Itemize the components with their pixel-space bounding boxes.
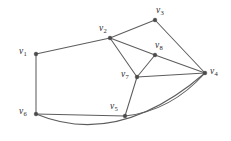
vertex-label-index: 2 — [104, 27, 107, 34]
vertex-label-v4: v4 — [210, 67, 218, 77]
vertex-label-v7: v7 — [121, 70, 129, 80]
vertex-label-letter: v — [155, 40, 159, 50]
graph-vertex-v2 — [108, 36, 112, 40]
vertex-label-letter: v — [19, 106, 23, 116]
graph-edge-v2-v3 — [110, 20, 155, 38]
vertex-label-letter: v — [121, 69, 125, 79]
graph-edge-v5-v4 — [125, 73, 205, 116]
vertex-label-v2: v2 — [99, 24, 107, 34]
vertex-label-index: 1 — [24, 50, 27, 57]
graph-vertex-v3 — [153, 18, 157, 22]
graph-edge-v8-v4 — [155, 55, 205, 73]
vertex-label-letter: v — [19, 46, 23, 56]
vertex-label-v6: v6 — [19, 107, 27, 117]
graph-edge-v6-v4 — [36, 73, 205, 125]
graph-vertex-v1 — [34, 52, 38, 56]
vertex-label-letter: v — [110, 101, 114, 111]
graph-vertex-v8 — [153, 53, 157, 57]
vertex-label-v8: v8 — [155, 41, 163, 51]
vertex-label-index: 3 — [161, 9, 164, 16]
vertex-label-v3: v3 — [156, 6, 164, 16]
graph-edge-v8-v7 — [137, 55, 155, 77]
vertex-label-index: 8 — [160, 44, 163, 51]
graph-vertex-v6 — [34, 112, 38, 116]
vertex-label-index: 5 — [115, 105, 118, 112]
vertex-label-v5: v5 — [110, 102, 118, 112]
graph-edge-v2-v8 — [110, 38, 155, 55]
vertex-label-index: 7 — [126, 73, 129, 80]
graph-vertex-v7 — [135, 75, 139, 79]
graph-vertex-v4 — [203, 71, 207, 75]
vertices-group — [34, 18, 207, 118]
vertex-label-index: 6 — [24, 110, 27, 117]
vertex-label-letter: v — [156, 5, 160, 15]
graph-edge-v5-v6 — [36, 114, 125, 116]
graph-vertex-v5 — [123, 114, 127, 118]
vertex-label-letter: v — [99, 23, 103, 33]
graph-edge-v7-v5 — [125, 77, 137, 116]
vertex-label-v1: v1 — [19, 47, 27, 57]
vertex-label-index: 4 — [215, 70, 218, 77]
graph-canvas — [0, 0, 231, 141]
graph-figure: v1v2v3v4v5v6v7v8 — [0, 0, 231, 141]
vertex-label-letter: v — [210, 66, 214, 76]
graph-edge-v7-v4 — [137, 73, 205, 77]
graph-edge-v1-v2 — [36, 38, 110, 54]
